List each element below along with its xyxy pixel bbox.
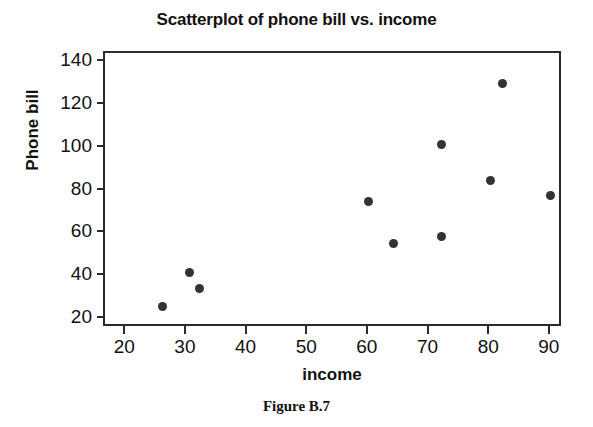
scatter-point — [437, 232, 446, 241]
y-tick-label: 60 — [28, 221, 92, 241]
x-tick-mark — [305, 326, 307, 334]
y-tick-label-text: 120 — [32, 93, 92, 112]
plot-area — [103, 51, 561, 326]
scatter-point — [389, 239, 398, 248]
x-tick-label: 80 — [458, 337, 518, 357]
y-tick-label: 80 — [28, 179, 92, 199]
scatter-point — [498, 79, 507, 88]
x-tick-label-text: 50 — [296, 336, 317, 357]
figure-container: Scatterplot of phone bill vs. income Pho… — [0, 0, 593, 427]
scatter-point — [195, 284, 204, 293]
x-tick-mark — [427, 326, 429, 334]
scatter-point — [546, 191, 555, 200]
y-tick-label: 20 — [28, 307, 92, 327]
scatter-point — [185, 268, 194, 277]
y-tick-label: 40 — [28, 264, 92, 284]
scatter-points-layer — [105, 53, 559, 324]
y-tick-label: 120 — [28, 93, 92, 113]
x-axis-label: income — [103, 365, 561, 385]
y-tick-label: 100 — [28, 136, 92, 156]
x-tick-label-text: 20 — [114, 336, 135, 357]
y-tick-label-text: 80 — [32, 179, 92, 198]
x-tick-label: 60 — [337, 337, 397, 357]
x-tick-mark — [548, 326, 550, 334]
y-tick-label-text: 60 — [32, 221, 92, 240]
scatter-point — [158, 302, 167, 311]
figure-caption: Figure B.7 — [0, 398, 593, 415]
y-tick-label-text: 100 — [32, 136, 92, 155]
x-tick-label: 90 — [519, 337, 579, 357]
y-tick-label-text: 140 — [32, 50, 92, 69]
x-tick-label-text: 90 — [538, 336, 559, 357]
x-tick-label: 40 — [216, 337, 276, 357]
x-tick-mark — [245, 326, 247, 334]
y-tick-label: 140 — [28, 50, 92, 70]
x-tick-label: 30 — [155, 337, 215, 357]
scatter-point — [364, 197, 373, 206]
x-tick-label-text: 70 — [417, 336, 438, 357]
x-tick-mark — [487, 326, 489, 334]
y-tick-label-text: 20 — [32, 307, 92, 326]
x-tick-label-text: 30 — [174, 336, 195, 357]
x-tick-mark — [366, 326, 368, 334]
x-tick-mark — [184, 326, 186, 334]
x-tick-mark — [123, 326, 125, 334]
x-tick-label: 70 — [398, 337, 458, 357]
x-tick-label: 20 — [94, 337, 154, 357]
x-tick-label-text: 60 — [356, 336, 377, 357]
x-tick-label: 50 — [276, 337, 336, 357]
x-tick-label-text: 80 — [478, 336, 499, 357]
y-tick-label-text: 40 — [32, 264, 92, 283]
x-tick-label-text: 40 — [235, 336, 256, 357]
scatter-point — [437, 140, 446, 149]
chart-title: Scatterplot of phone bill vs. income — [0, 10, 593, 30]
scatter-point — [486, 176, 495, 185]
